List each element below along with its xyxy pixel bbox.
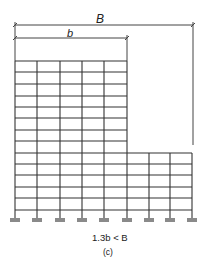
frame-grid xyxy=(15,61,192,218)
figure-caption: (c) xyxy=(103,247,113,257)
fixed-support-icon xyxy=(99,218,109,222)
fixed-support-icon xyxy=(122,218,132,222)
fixed-support-icon xyxy=(187,218,197,222)
fixed-support-icon xyxy=(10,218,20,222)
fixed-support-icon xyxy=(32,218,42,222)
fixed-support-icon xyxy=(144,218,154,222)
fixed-support-icon xyxy=(55,218,65,222)
fixed-supports xyxy=(10,218,197,222)
fixed-support-icon xyxy=(77,218,87,222)
fixed-support-icon xyxy=(165,218,175,222)
label-b: b xyxy=(67,27,73,39)
condition-label: 1.3b < B xyxy=(92,232,128,243)
building-frame-diagram xyxy=(0,0,205,260)
label-B: B xyxy=(96,12,104,26)
